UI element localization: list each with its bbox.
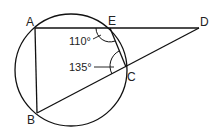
angle-label-C: 135°: [69, 61, 92, 73]
point-label-B: B: [27, 113, 35, 127]
point-label-A: A: [26, 15, 34, 29]
line-AB: [35, 28, 37, 113]
point-label-D: D: [200, 15, 209, 29]
point-label-C: C: [127, 70, 136, 84]
point-label-E: E: [108, 14, 116, 28]
geometry-diagram: A E D C B 110° 135°: [0, 0, 217, 133]
angle-label-E: 110°: [69, 35, 91, 47]
angle-arc-E: [96, 28, 115, 42]
line-EC: [110, 28, 126, 67]
